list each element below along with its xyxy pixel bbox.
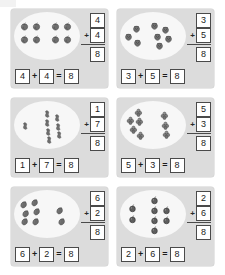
vertical-addition: 6+28 (81, 191, 105, 240)
sum-row: 8 (196, 136, 211, 151)
vertical-addition: 1+78 (81, 102, 105, 151)
equation-addend-2-box[interactable]: 7 (39, 158, 54, 173)
sum-row: 8 (196, 225, 211, 240)
plus-sign: + (190, 32, 195, 40)
right-group (14, 101, 80, 149)
equation-result-box[interactable]: 8 (170, 247, 185, 262)
addend-1-box[interactable]: 2 (196, 191, 211, 206)
worksheet-grid: 4+484+4=8 3+583+5=8 (11, 9, 214, 266)
equation-result-box[interactable]: 8 (170, 69, 185, 84)
problem-cell: 3+583+5=8 (117, 9, 214, 88)
equation-equals-sign: = (161, 250, 168, 259)
problem-cell: 5+385+3=8 (117, 98, 214, 177)
equation-result-box[interactable]: 8 (64, 69, 79, 84)
strawberry-icon (155, 41, 164, 50)
equation-plus-sign: + (31, 250, 38, 259)
addend-2-box[interactable]: 6 (196, 206, 211, 221)
equation-addend-2-box[interactable]: 4 (39, 69, 54, 84)
addend-2-box[interactable]: 5 (196, 28, 211, 43)
equation-addend-1-box[interactable]: 2 (121, 247, 136, 262)
sum-box[interactable]: 8 (196, 47, 211, 62)
apple-icon (63, 22, 72, 31)
equation-result-box[interactable]: 8 (170, 158, 185, 173)
addend-1-box[interactable]: 5 (196, 102, 211, 117)
problem-cell: 2+682+6=8 (117, 187, 214, 266)
sum-box[interactable]: 8 (196, 136, 211, 151)
peanut-icon (43, 118, 52, 127)
equation-equals-sign: = (55, 72, 62, 81)
sum-rule (187, 222, 211, 223)
addend-row-1: 4 (90, 13, 105, 28)
equation-result-box[interactable]: 8 (64, 158, 79, 173)
sum-box[interactable]: 8 (90, 225, 105, 240)
addend-2-box[interactable]: 2 (90, 206, 105, 221)
equation-equals-sign: = (161, 161, 168, 170)
sum-rule (81, 133, 105, 134)
apple-icon (51, 22, 60, 31)
vertical-addition: 5+38 (187, 102, 211, 151)
equation-addend-1-box[interactable]: 6 (15, 247, 30, 262)
equation-addend-2-box[interactable]: 5 (145, 69, 160, 84)
sum-row: 8 (196, 47, 211, 62)
equation-addend-2-box[interactable]: 3 (145, 158, 160, 173)
addend-1-box[interactable]: 1 (90, 102, 105, 117)
right-group (14, 190, 80, 238)
peanut-icon (45, 135, 54, 144)
eggplant-icon (57, 217, 66, 226)
cherry-icon (150, 226, 159, 235)
horizontal-equation: 1+7=8 (15, 158, 79, 173)
horizontal-equation: 2+6=8 (121, 247, 185, 262)
grape-icon (161, 121, 170, 130)
problem-cell: 4+484+4=8 (11, 9, 108, 88)
addend-row-1: 3 (196, 13, 211, 28)
equation-addend-2-box[interactable]: 2 (39, 247, 54, 262)
addend-1-box[interactable]: 4 (90, 13, 105, 28)
addend-2-box[interactable]: 3 (196, 117, 211, 132)
sum-rule (81, 222, 105, 223)
horizontal-equation: 5+3=8 (121, 158, 185, 173)
equation-addend-1-box[interactable]: 1 (15, 158, 30, 173)
addend-row-1: 2 (196, 191, 211, 206)
corner-smudge (0, 0, 16, 7)
cherry-icon (162, 206, 171, 215)
cherry-icon (162, 216, 171, 225)
addend-1-box[interactable]: 6 (90, 191, 105, 206)
picture-area (120, 12, 186, 62)
apple-icon (51, 35, 60, 44)
plus-sign: + (190, 210, 195, 218)
vertical-addition: 2+68 (187, 191, 211, 240)
peanut-icon (55, 130, 64, 139)
right-group (120, 12, 186, 60)
cherry-icon (150, 196, 159, 205)
sum-row: 8 (90, 47, 105, 62)
problem-cell: 6+286+2=8 (11, 187, 108, 266)
equation-equals-sign: = (161, 72, 168, 81)
sum-box[interactable]: 8 (90, 47, 105, 62)
right-group (14, 12, 80, 60)
equation-plus-sign: + (137, 250, 144, 259)
plus-sign: + (190, 121, 195, 129)
equation-addend-1-box[interactable]: 4 (15, 69, 30, 84)
addend-row-1: 6 (90, 191, 105, 206)
cherry-icon (150, 216, 159, 225)
sum-box[interactable]: 8 (196, 225, 211, 240)
addend-row-2: +4 (84, 28, 105, 43)
picture-area (14, 12, 80, 62)
strawberry-icon (161, 25, 170, 34)
peanut-icon (53, 113, 62, 122)
plus-sign: + (84, 210, 89, 218)
equation-addend-1-box[interactable]: 3 (121, 69, 136, 84)
equation-result-box[interactable]: 8 (64, 247, 79, 262)
addend-1-box[interactable]: 3 (196, 13, 211, 28)
horizontal-equation: 6+2=8 (15, 247, 79, 262)
equation-addend-2-box[interactable]: 6 (145, 247, 160, 262)
eggplant-icon (55, 206, 64, 215)
strawberry-icon (164, 34, 173, 43)
addend-2-box[interactable]: 4 (90, 28, 105, 43)
sum-box[interactable]: 8 (90, 136, 105, 151)
addend-2-box[interactable]: 7 (90, 117, 105, 132)
equation-addend-1-box[interactable]: 5 (121, 158, 136, 173)
plus-sign: + (84, 121, 89, 129)
sum-row: 8 (90, 136, 105, 151)
equation-plus-sign: + (137, 161, 144, 170)
